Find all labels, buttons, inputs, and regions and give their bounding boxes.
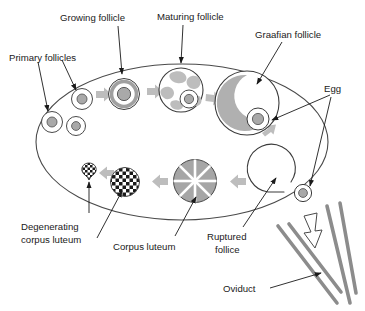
primary-follicle-c <box>72 89 93 110</box>
maturing-follicle-structure <box>159 68 203 112</box>
label-ruptured-follicle-line1: Ruptured <box>207 231 246 242</box>
label-graafian-follicle: Graafian follicle <box>255 29 321 40</box>
label-egg: Egg <box>324 83 341 94</box>
label-ruptured-follicle-line2: follice <box>215 244 240 255</box>
primary-follicle-a <box>42 112 63 133</box>
figure-background <box>0 0 365 311</box>
label-primary-follicles: Primary follicles <box>9 52 76 63</box>
corpus-luteum-structure <box>174 160 217 203</box>
released-egg-structure <box>294 184 311 201</box>
label-degenerating-line2: corpus luteum <box>21 234 81 245</box>
growing-follicle-structure <box>109 79 140 110</box>
label-maturing-follicle: Maturing follicle <box>157 11 224 22</box>
label-corpus-luteum: Corpus luteum <box>113 241 175 252</box>
graafian-follicle-structure <box>215 71 279 135</box>
ovarian-cycle-figure: Primary follicles Growing follicle Matur… <box>0 0 365 311</box>
primary-follicle-b <box>67 117 86 136</box>
label-oviduct: Oviduct <box>223 283 256 294</box>
degenerating-corpus-luteum-large <box>111 168 140 197</box>
label-degenerating-line1: Degenerating <box>21 221 79 232</box>
diagram-canvas: Primary follicles Growing follicle Matur… <box>0 0 365 311</box>
label-growing-follicle: Growing follicle <box>60 12 125 23</box>
